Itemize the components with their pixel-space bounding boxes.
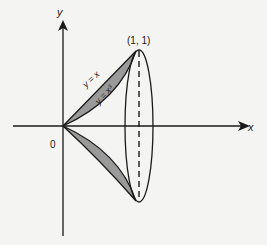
x-axis-label: x	[247, 121, 254, 133]
curve-label-y-equals-x: y = x	[80, 69, 102, 90]
origin-label: 0	[50, 139, 56, 150]
y-axis-label: y	[56, 6, 64, 18]
point-label: (1, 1)	[127, 35, 150, 46]
diagram-canvas: x y 0 (1, 1) y = x y = x³	[0, 0, 267, 245]
